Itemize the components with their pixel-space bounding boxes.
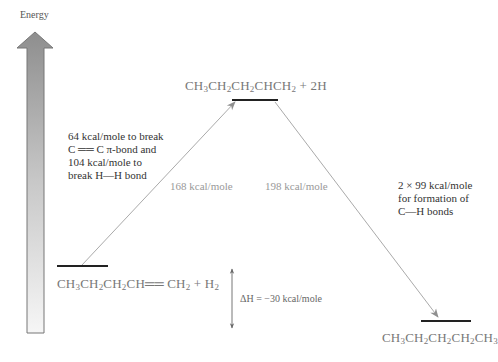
bond-breaking-note: 64 kcal/mole to break C ══ C π-bond and … [68,130,164,182]
product-formula: CH3CH2CH2CH2CH3 [382,330,498,346]
reactants-formula: CH3CH2CH2CH══ CH2 + H2 [57,276,219,292]
down-energy-value: 198 kcal/mole [265,180,328,192]
bond-formation-note: 2 × 99 kcal/mole for formation of C—H bo… [398,179,472,218]
delta-h-label: ΔH = −30 kcal/mole [240,293,322,304]
energy-axis-label: Energy [20,9,49,20]
up-energy-value: 168 kcal/mole [170,180,233,192]
intermediate-formula: CH3CH2CH2CHCH2 + 2H [185,78,327,94]
energy-axis-arrow-icon [17,32,53,333]
